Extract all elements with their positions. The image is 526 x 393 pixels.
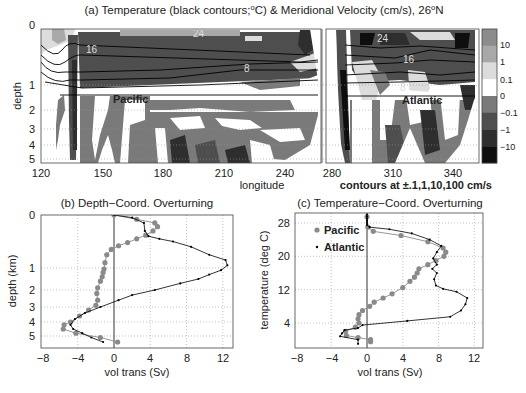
contour-levels-note: contours at ±.1,1,10,100 cm/s (340, 179, 492, 191)
xtick: 180 (154, 167, 172, 179)
pacific-marker (104, 252, 109, 257)
xtick: 340 (444, 167, 462, 179)
atlantic-marker (432, 257, 434, 259)
ytick: 20 (278, 250, 290, 262)
panel-b-yticks: 0 1 2 3 4 5 (29, 209, 35, 342)
xtick: −8 (291, 352, 304, 364)
atlantic-marker (226, 264, 228, 266)
atlantic-marker (131, 294, 133, 296)
panel-c: (c) Temperature−Coord. Overturning Pacif… (258, 197, 483, 378)
atlantic-marker (440, 245, 442, 247)
atlantic-marker (179, 282, 181, 284)
atlantic-marker (344, 329, 346, 331)
panel-a-ylabel: depth (11, 82, 23, 110)
pacific-marker (360, 308, 365, 313)
atlantic-marker (460, 309, 462, 311)
atlantic-marker (117, 299, 119, 301)
contour-label-24-pacific: 24 (193, 28, 205, 39)
atlantic-marker (429, 239, 431, 241)
atlantic-marker (369, 226, 371, 228)
atlantic-marker (357, 339, 359, 341)
panel-c-ylabel: temperature (deg C) (258, 230, 270, 329)
panel-a-title: (a) Temperature (black contours;oC) & Me… (84, 3, 443, 16)
colorbar-label: −10 (500, 142, 515, 152)
xtick: 4 (147, 352, 153, 364)
basin-label-pacific: Pacific (113, 93, 148, 105)
ytick: 3 (29, 123, 35, 135)
atlantic-marker (190, 246, 192, 248)
pacific-marker (372, 300, 377, 305)
pacific-marker (109, 247, 114, 252)
pacific-marker (389, 291, 394, 296)
panel-c-yticks: 28 20 12 4 (278, 217, 290, 329)
xtick: 4 (400, 352, 406, 364)
atlantic-marker (436, 264, 438, 266)
pacific-marker (94, 291, 99, 296)
panel-b-title: (b) Depth−Coord. Overturning (61, 197, 213, 209)
atlantic-marker (158, 238, 160, 240)
colorbar-label: 1 (500, 57, 505, 67)
colorbar-label: 0.1 (500, 75, 513, 85)
xtick: 280 (323, 167, 341, 179)
panel-b-xlabel: vol trans (Sv) (105, 366, 170, 378)
pacific-marker (371, 229, 376, 234)
atlantic-marker (197, 278, 199, 280)
atlantic-marker (357, 343, 359, 345)
atlantic-marker (366, 224, 368, 226)
colorbar-label: −1 (500, 125, 510, 135)
colorbar-swatch (482, 130, 497, 147)
atlantic-marker (455, 291, 457, 293)
panel-a-xlabel: longitude (240, 179, 285, 191)
panel-a-yticks: 0 1 2 3 4 5 (29, 19, 35, 165)
pacific-marker (367, 304, 372, 309)
pacific-marker (425, 262, 430, 267)
legend-atlantic-marker (316, 246, 318, 248)
atlantic-marker (464, 303, 466, 305)
atlantic-marker (357, 327, 359, 329)
pacific-marker (412, 275, 417, 280)
atlantic-marker (147, 235, 149, 237)
atlantic-marker (431, 268, 433, 270)
ytick: 3 (29, 301, 35, 313)
ytick: 0 (29, 19, 35, 31)
xtick: 120 (32, 167, 50, 179)
ytick: 4 (284, 317, 290, 329)
ytick: 5 (29, 153, 35, 165)
pacific-marker (98, 279, 103, 284)
pacific-marker (155, 224, 160, 229)
colorbar-label: 0 (500, 91, 505, 101)
atlantic-marker (436, 272, 438, 274)
panel-a: (a) Temperature (black contours;oC) & Me… (11, 3, 518, 191)
atlantic-marker (366, 218, 368, 220)
colorbar-swatch (482, 29, 497, 46)
atlantic-marker (366, 216, 368, 218)
xtick: 240 (276, 167, 294, 179)
xtick: 8 (184, 352, 190, 364)
pacific-marker (398, 233, 403, 238)
atlantic-marker (90, 336, 92, 338)
pacific-marker (381, 295, 386, 300)
contour-label-24-atlantic: 24 (377, 33, 389, 44)
xtick: 12 (468, 352, 480, 364)
xtick: 12 (217, 352, 229, 364)
atlantic-marker (99, 306, 101, 308)
pacific-marker (407, 279, 412, 284)
xtick: 150 (94, 167, 112, 179)
colorbar-swatch (482, 79, 497, 96)
panel-b: (b) Depth−Coord. Overturning 0 1 2 3 4 5… (6, 197, 233, 378)
contour-label-16-atlantic: 16 (403, 54, 415, 65)
basin-label-atlantic: Atlantic (402, 94, 442, 106)
pacific-marker (125, 240, 130, 245)
atlantic-marker (220, 269, 222, 271)
pacific-marker (441, 254, 446, 259)
ytick: 1 (29, 79, 35, 91)
pacific-marker (93, 303, 98, 308)
atlantic-marker (433, 278, 435, 280)
atlantic-marker (366, 220, 368, 222)
atlantic-marker (208, 274, 210, 276)
ytick: 28 (278, 217, 290, 229)
ytick: 4 (29, 316, 35, 328)
panel-b-ylabel: depth (km) (6, 255, 18, 308)
pacific-marker (115, 339, 120, 344)
ytick: 0 (29, 209, 35, 221)
